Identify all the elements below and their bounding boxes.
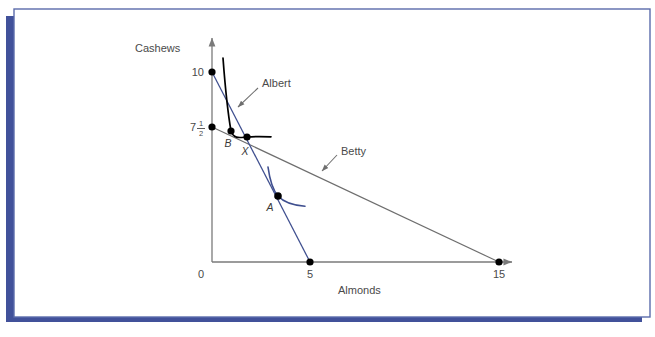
point-cashews-10 <box>208 68 215 75</box>
y-tick-whole-part: 7 <box>190 121 196 133</box>
x-axis-label: Almonds <box>338 284 381 296</box>
x-tick-label-5: 5 <box>307 268 313 280</box>
frame-panel <box>14 9 650 317</box>
y-tick-fraction-numerator: 1 <box>199 119 203 128</box>
x-tick-label-15: 15 <box>493 268 505 280</box>
point-b <box>227 127 234 134</box>
y-axis-label: Cashews <box>135 42 181 54</box>
betty-curve-label: Betty <box>341 145 367 157</box>
point-cashews-7h <box>208 123 215 130</box>
chart-canvas: Cashews Almonds 0 5 15 10 7 1 2 Albert B… <box>0 0 655 337</box>
point-almonds-15 <box>495 258 502 265</box>
frame <box>6 9 650 322</box>
point-label-a: A <box>265 201 273 213</box>
y-tick-fraction-denominator: 2 <box>199 129 203 138</box>
point-a <box>274 192 282 200</box>
point-label-b: B <box>224 137 231 149</box>
point-label-x: X <box>240 145 249 157</box>
point-x <box>243 133 250 140</box>
y-tick-label-10: 10 <box>192 66 204 78</box>
origin-tick-label: 0 <box>198 268 204 280</box>
figure-root: Cashews Almonds 0 5 15 10 7 1 2 Albert B… <box>0 0 655 337</box>
point-almonds-5 <box>306 258 313 265</box>
albert-curve-label: Albert <box>262 77 291 89</box>
